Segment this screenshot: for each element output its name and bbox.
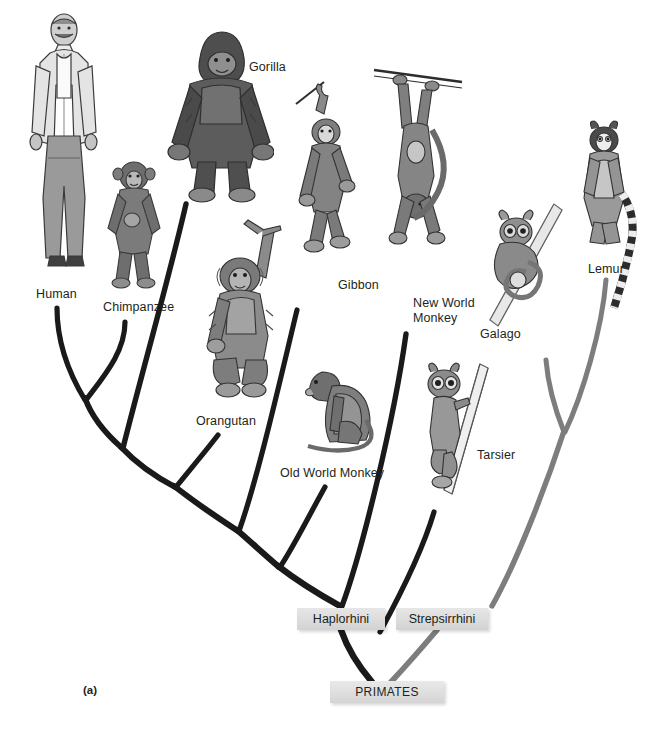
old-world-monkey-illustration	[296, 350, 396, 462]
chimpanzee-illustration	[96, 158, 172, 290]
new-world-monkey-illustration	[370, 56, 466, 286]
gorilla-illustration	[162, 28, 274, 206]
taxon-label-lemur: Lemur	[588, 262, 624, 277]
clade-box-haplorhini: Haplorhini	[297, 608, 385, 630]
taxon-label-human: Human	[36, 287, 77, 302]
clade-label-haplorhini: Haplorhini	[313, 612, 369, 626]
branch-galago	[546, 360, 564, 432]
branch-human	[57, 308, 85, 400]
taxon-label-old-world-monkey: Old World Monkey	[280, 466, 384, 481]
branch-haplorhini-stem	[341, 630, 372, 682]
root-label: PRIMATES	[355, 685, 419, 699]
lemur-illustration	[574, 118, 650, 318]
branch-strepsirrhini-root	[391, 630, 437, 682]
figure-canvas: Human Chimpanzee Gorilla Orangutan Gibbo…	[0, 0, 664, 730]
branch-hominoidea	[237, 530, 279, 567]
taxon-label-galago: Galago	[480, 327, 521, 342]
branch-chimpanzee	[86, 322, 125, 400]
branch-old-world-monkey	[280, 487, 325, 567]
taxon-label-gorilla: Gorilla	[249, 60, 286, 75]
orangutan-illustration	[196, 218, 300, 408]
clade-box-strepsirrhini: Strepsirrhini	[396, 608, 488, 630]
panel-letter: (a)	[83, 684, 97, 696]
root-box-primates: PRIMATES	[330, 681, 444, 703]
branch-hominidae	[174, 486, 238, 531]
human-illustration	[20, 8, 106, 280]
galago-illustration	[480, 200, 566, 330]
branch-orangutan	[176, 435, 218, 487]
taxon-label-gibbon: Gibbon	[338, 278, 379, 293]
branch-homininae	[121, 447, 175, 487]
branch-catarrhini	[278, 566, 340, 606]
taxon-label-chimpanzee: Chimpanzee	[103, 300, 174, 315]
taxon-label-tarsier: Tarsier	[477, 448, 515, 463]
gibbon-illustration	[286, 70, 364, 270]
tarsier-illustration	[418, 358, 494, 508]
taxon-label-orangutan: Orangutan	[196, 414, 256, 429]
branch-hominini	[85, 398, 122, 448]
clade-label-strepsirrhini: Strepsirrhini	[409, 612, 476, 626]
taxon-label-new-world-monkey: New World Monkey	[413, 296, 475, 326]
